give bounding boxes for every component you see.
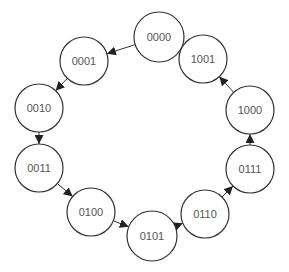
transition-arrow-0011-to-0100 (57, 184, 72, 197)
state-node-0110: 0110 (181, 190, 229, 238)
state-node-1000: 1000 (226, 86, 274, 134)
state-label: 0101 (140, 230, 164, 242)
state-label: 0110 (193, 208, 217, 220)
arrow-line (57, 184, 72, 197)
arrow-line (113, 221, 128, 227)
state-label: 1001 (191, 53, 215, 65)
state-label: 0011 (27, 162, 51, 174)
state-label: 0000 (147, 31, 171, 43)
transition-arrow-0001-to-0010 (56, 78, 68, 90)
state-node-0010: 0010 (15, 84, 63, 132)
arrow-line (222, 186, 233, 197)
transition-arrow-0000-to-0001 (107, 45, 135, 54)
state-node-0001: 0001 (60, 37, 108, 85)
state-node-0000: 0000 (134, 12, 184, 62)
state-node-0111: 0111 (226, 145, 274, 193)
state-node-0011: 0011 (15, 144, 63, 192)
transition-arrow-0110-to-0111 (222, 186, 233, 197)
state-node-0101: 0101 (127, 211, 177, 261)
transition-arrow-0100-to-0101 (113, 221, 128, 227)
state-label: 0100 (79, 206, 103, 218)
transition-arrow-1000-to-1001 (219, 77, 233, 93)
state-label: 1000 (238, 104, 262, 116)
arrow-line (219, 77, 233, 93)
state-label: 0111 (239, 163, 262, 175)
transition-arrow-0101-to-0110 (175, 223, 183, 226)
state-node-0100: 0100 (67, 188, 115, 236)
state-diagram: 0000000100100011010001010110011110001001 (0, 0, 289, 272)
state-node-1001: 1001 (179, 35, 227, 83)
arrow-line (175, 223, 183, 226)
state-label: 0010 (27, 102, 51, 114)
arrow-line (107, 45, 135, 54)
arrow-line (56, 78, 68, 90)
state-label: 0001 (72, 55, 96, 67)
